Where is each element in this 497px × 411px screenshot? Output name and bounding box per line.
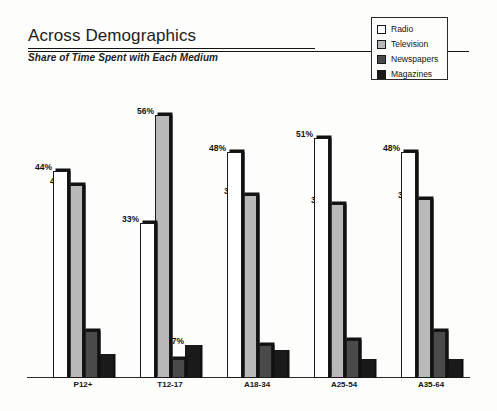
bar: 4% [170, 359, 185, 378]
bar-rect [344, 340, 359, 378]
legend-item-label: Magazines [391, 70, 432, 79]
legend-swatch-television [377, 40, 386, 49]
chart-header: Across Demographics Share of Time Spent … [28, 26, 358, 64]
bar-rect [185, 345, 200, 378]
page-title: Across Demographics [28, 26, 358, 46]
chart-page: Across Demographics Share of Time Spent … [0, 0, 497, 411]
x-axis-tick-label: T12-17 [140, 380, 200, 389]
bar: 7% [257, 345, 272, 378]
bar-rect [446, 359, 461, 378]
legend-item-label: Newspapers [391, 55, 438, 64]
title-underline [28, 48, 315, 49]
bar: 41% [68, 185, 83, 378]
bar-rect [83, 331, 98, 378]
bar-group: 33%56%4%7%T12-17 [140, 88, 200, 378]
chart-legend: RadioTelevisionNewspapersMagazines [371, 17, 448, 80]
bar-rect [431, 331, 446, 378]
bar-value-label: 7% [172, 337, 184, 346]
legend-item: Newspapers [377, 52, 447, 66]
bar-rect [329, 204, 344, 378]
bar-rect [257, 345, 272, 378]
bar: 39% [242, 195, 257, 378]
bar-value-label: 51% [296, 130, 313, 139]
bar-rect [272, 350, 287, 378]
bar-value-label: 48% [209, 144, 226, 153]
legend-item: Radio [377, 22, 447, 36]
plot-area: 44%41%10%5%P12+33%56%4%7%T12-1748%39%7%6… [27, 88, 470, 378]
x-axis-tick-label: A25-54 [314, 380, 374, 389]
bar: 5% [98, 354, 113, 378]
bar-rect [53, 171, 68, 378]
legend-swatch-radio [377, 25, 386, 34]
bar-rect [314, 138, 329, 378]
legend-swatch-magazines [377, 70, 386, 79]
bar: 6% [272, 350, 287, 378]
bar-rect [227, 152, 242, 378]
bar: 51% [314, 138, 329, 378]
bar-group: 48%38%10%4%A35-64 [401, 88, 461, 378]
bar: 8% [344, 340, 359, 378]
bar-group: 44%41%10%5%P12+ [53, 88, 113, 378]
legend-item-label: Radio [391, 25, 413, 34]
bar: 4% [359, 359, 374, 378]
bar: 48% [227, 152, 242, 378]
bar-rect [359, 359, 374, 378]
x-axis-tick-label: A35-64 [401, 380, 461, 389]
bar: 48% [401, 152, 416, 378]
bar: 10% [83, 331, 98, 378]
legend-item: Magazines [377, 67, 447, 81]
legend-swatch-newspapers [377, 55, 386, 64]
bar-value-label: 33% [122, 215, 139, 224]
bar: 10% [431, 331, 446, 378]
bar: 44% [53, 171, 68, 378]
bar-rect [68, 185, 83, 378]
bar: 33% [140, 223, 155, 378]
bar-group: 51%37%8%4%A25-54 [314, 88, 374, 378]
bar: 56% [155, 115, 170, 378]
bar-rect [98, 354, 113, 378]
legend-item-label: Television [391, 40, 428, 49]
x-axis-tick-label: P12+ [53, 380, 113, 389]
page-subtitle: Share of Time Spent with Each Medium [28, 52, 358, 64]
bar-group: 48%39%7%6%A18-34 [227, 88, 287, 378]
bar-rect [170, 359, 185, 378]
x-axis-tick-label: A18-34 [227, 380, 287, 389]
bar-rect [401, 152, 416, 378]
bar-rect [242, 195, 257, 378]
bar-rect [140, 223, 155, 378]
bar: 4% [446, 359, 461, 378]
bar-rect [416, 199, 431, 378]
bar-value-label: 48% [383, 144, 400, 153]
legend-item: Television [377, 37, 447, 51]
bar: 37% [329, 204, 344, 378]
bar-value-label: 44% [35, 163, 52, 172]
bar: 38% [416, 199, 431, 378]
bar-value-label: 56% [137, 107, 154, 116]
bar-rect [155, 115, 170, 378]
bar: 7% [185, 345, 200, 378]
